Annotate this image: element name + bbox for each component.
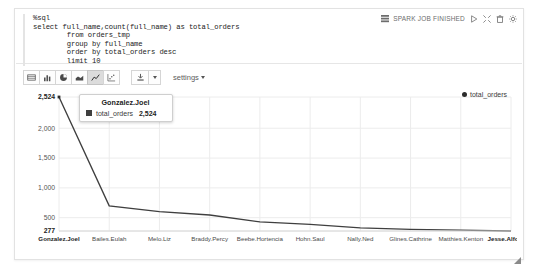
code-editor[interactable]: %sql select full_name,count(full_name) a… bbox=[15, 9, 523, 63]
chart-tooltip: Gonzalez.Joel total_orders 2,524 bbox=[79, 94, 173, 122]
x-tick-label: Hohn.Saul bbox=[296, 235, 325, 242]
chart-legend[interactable]: total_orders bbox=[462, 91, 507, 98]
settings-label: settings bbox=[173, 73, 199, 82]
download-dropdown-button[interactable] bbox=[149, 70, 161, 85]
chart-type-group bbox=[23, 70, 120, 85]
tooltip-series-label: total_orders bbox=[96, 110, 133, 117]
y-axis-ticks: 2,5242,0001,5001,000500277 bbox=[38, 93, 55, 234]
spark-job-status: SPARK JOB FINISHED bbox=[380, 14, 517, 23]
table-view-button[interactable] bbox=[23, 70, 40, 85]
tooltip-row: total_orders 2,524 bbox=[86, 110, 165, 117]
settings-toggle[interactable]: settings bbox=[173, 73, 205, 82]
resize-handle[interactable] bbox=[514, 250, 521, 257]
legend-dot-icon bbox=[462, 92, 468, 98]
data-point-marker[interactable] bbox=[58, 96, 61, 99]
pie-chart-button[interactable] bbox=[55, 70, 72, 85]
y-tick-label: 1,500 bbox=[38, 154, 55, 161]
code-line: from orders_tmp bbox=[33, 31, 515, 40]
tooltip-value: 2,524 bbox=[139, 110, 157, 117]
x-tick-label: Jesse.Alfo bbox=[488, 235, 517, 242]
x-axis-ticks: Gonzalez.JoelBailes.EulahMelo.LizBraddy.… bbox=[38, 235, 517, 242]
x-tick-label: Melo.Liz bbox=[148, 235, 171, 242]
chart-toolbar: settings bbox=[15, 67, 523, 87]
y-tick-label: 2,524 bbox=[38, 93, 55, 101]
x-tick-label: Gonzalez.Joel bbox=[38, 235, 80, 242]
x-tick-label: Nally.Ned bbox=[347, 235, 374, 242]
notebook-paragraph: %sql select full_name,count(full_name) a… bbox=[14, 8, 524, 260]
bar-chart-button[interactable] bbox=[39, 70, 56, 85]
gear-icon[interactable] bbox=[508, 14, 517, 23]
line-chart-button[interactable] bbox=[87, 70, 104, 85]
code-line: limit 10 bbox=[33, 57, 515, 66]
code-line: select full_name,count(full_name) as tot… bbox=[33, 23, 515, 32]
y-tick-label: 2,000 bbox=[38, 125, 55, 132]
spark-job-label: SPARK JOB FINISHED bbox=[393, 15, 465, 22]
download-button[interactable] bbox=[131, 70, 149, 85]
expand-icon[interactable] bbox=[482, 14, 491, 23]
y-tick-label: 277 bbox=[44, 227, 56, 234]
tooltip-swatch-icon bbox=[86, 110, 92, 116]
x-tick-label: Beebe.Hortencia bbox=[237, 235, 284, 242]
legend-label: total_orders bbox=[470, 91, 507, 98]
chevron-down-icon bbox=[201, 76, 205, 79]
trash-icon[interactable] bbox=[495, 14, 504, 23]
x-tick-label: Bailes.Eulah bbox=[92, 235, 127, 242]
y-tick-label: 500 bbox=[44, 214, 56, 221]
tooltip-title: Gonzalez.Joel bbox=[86, 98, 165, 107]
area-chart-button[interactable] bbox=[71, 70, 88, 85]
line-chart[interactable]: 2,5242,0001,5001,000500277 Gonzalez.Joel… bbox=[21, 89, 517, 257]
play-icon[interactable] bbox=[469, 14, 478, 23]
scatter-chart-button[interactable] bbox=[103, 70, 120, 85]
x-tick-label: Matthies.Kenton bbox=[438, 235, 483, 242]
code-line: order by total_orders desc bbox=[33, 48, 515, 57]
x-tick-label: Glines.Cathrine bbox=[389, 235, 432, 242]
grid-icon[interactable] bbox=[380, 14, 389, 23]
y-tick-label: 1,000 bbox=[38, 184, 55, 191]
chevron-down-icon bbox=[153, 76, 157, 79]
code-line: group by full_name bbox=[33, 40, 515, 49]
x-tick-label: Braddy.Percy bbox=[191, 235, 229, 242]
